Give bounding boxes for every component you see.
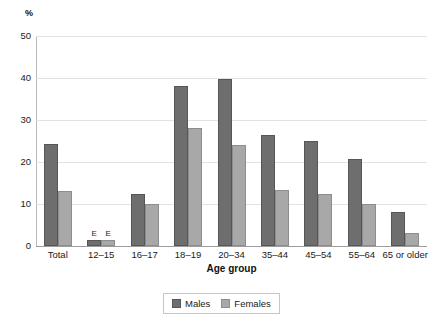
bar-rect: [44, 144, 58, 246]
bar-rect: [87, 240, 101, 246]
bar-rect: [318, 194, 332, 246]
bar-rect: [405, 233, 419, 246]
bar-group: [348, 36, 376, 246]
chart-legend: Males Females: [163, 293, 280, 314]
bar-rect: [232, 145, 246, 246]
bar-rect: [261, 135, 275, 246]
bar-group: [174, 36, 202, 246]
legend-label-males: Males: [185, 299, 210, 309]
y-tick-label-50: 50: [7, 31, 31, 41]
y-tick-label-40: 40: [7, 73, 31, 83]
bar-chart: % 01020304050 EE Total12–1516–1718–1920–…: [0, 0, 439, 321]
x-axis-tick-labels: Total12–1516–1718–1920–3435–4445–5455–64…: [36, 249, 427, 263]
y-axis-unit-label: %: [25, 8, 33, 18]
y-tick-label-10: 10: [7, 199, 31, 209]
quality-flag-marker: E: [101, 229, 115, 238]
bar-rect: [145, 204, 159, 246]
quality-flag-marker: E: [87, 229, 101, 238]
y-axis-tick-labels: 01020304050: [0, 36, 31, 246]
bar-rect: [174, 86, 188, 246]
bar-rect: [101, 240, 115, 246]
bar-rect: [188, 128, 202, 246]
legend-item-females[interactable]: Females: [221, 299, 270, 309]
x-axis-title: Age group: [36, 263, 427, 274]
gridline-0: [36, 246, 427, 247]
females-swatch-icon: [221, 299, 230, 308]
bar-group: [131, 36, 159, 246]
bar-rect: [218, 79, 232, 246]
bar-rect: [391, 212, 405, 246]
bar-group: EE: [87, 36, 115, 246]
bar-rect: [275, 190, 289, 246]
bars-layer: EE: [36, 36, 427, 246]
bar-rect: [304, 141, 318, 246]
x-tick-label: 65 or older: [365, 249, 439, 261]
y-tick-label-20: 20: [7, 157, 31, 167]
bar-rect: [348, 159, 362, 246]
bar-group: [218, 36, 246, 246]
bar-group: [44, 36, 72, 246]
legend-label-females: Females: [234, 299, 270, 309]
bar-group: [304, 36, 332, 246]
bar-rect: [362, 204, 376, 246]
legend-item-males[interactable]: Males: [172, 299, 210, 309]
bar-rect: [58, 191, 72, 246]
bar-rect: [131, 194, 145, 246]
males-swatch-icon: [172, 299, 181, 308]
y-tick-label-30: 30: [7, 115, 31, 125]
bar-group: [391, 36, 419, 246]
bar-group: [261, 36, 289, 246]
